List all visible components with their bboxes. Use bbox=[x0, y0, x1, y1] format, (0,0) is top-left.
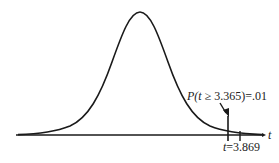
critical-value-label: t=3.869 bbox=[223, 140, 260, 154]
axis-label-t: t bbox=[268, 128, 272, 142]
t-distribution-chart: t P(t ≥ 3.365)=.01 t=3.869 bbox=[0, 0, 279, 163]
axis-arrow-icon bbox=[262, 133, 266, 137]
density-curve bbox=[18, 12, 262, 135]
probability-label: P(t ≥ 3.365)=.01 bbox=[186, 89, 267, 103]
